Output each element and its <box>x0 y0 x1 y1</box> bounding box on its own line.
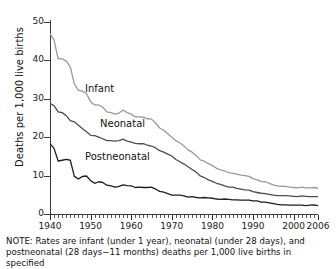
x-tick-1962 <box>139 215 140 218</box>
y-tick-label-50: 50 <box>0 17 44 26</box>
x-tick-1995 <box>273 215 274 218</box>
x-tick-1972 <box>180 215 181 218</box>
x-tick-1987 <box>241 215 242 218</box>
x-axis-ticks <box>50 215 318 219</box>
x-tick-2003 <box>306 215 307 218</box>
x-tick-1945 <box>70 215 71 218</box>
x-tick-1950 <box>91 215 92 220</box>
x-tick-1994 <box>269 215 270 218</box>
x-tick-1955 <box>111 215 112 218</box>
x-tick-1982 <box>221 215 222 218</box>
x-tick-1954 <box>107 215 108 218</box>
x-tick-2002 <box>302 215 303 218</box>
x-tick-1942 <box>58 215 59 218</box>
y-tick-label-40: 40 <box>0 55 44 64</box>
x-tick-1951 <box>95 215 96 218</box>
x-tick-1973 <box>184 215 185 218</box>
x-tick-1966 <box>156 215 157 218</box>
x-tick-1999 <box>290 215 291 218</box>
x-tick-1984 <box>229 215 230 218</box>
x-tick-1981 <box>216 215 217 218</box>
x-tick-2006 <box>318 215 319 220</box>
x-tick-1986 <box>237 215 238 218</box>
x-tick-1946 <box>74 215 75 218</box>
x-tick-1970 <box>172 215 173 220</box>
chart-note-line-1: NOTE: Rates are infant (under 1 year), n… <box>6 236 332 247</box>
x-tick-1969 <box>168 215 169 218</box>
x-axis-tick-labels: 19401950196019701980199020002006 <box>0 221 336 233</box>
x-tick-1956 <box>115 215 116 218</box>
x-tick-1976 <box>196 215 197 218</box>
x-tick-2004 <box>310 215 311 218</box>
x-tick-1989 <box>249 215 250 218</box>
y-tick-label-10: 10 <box>0 171 44 180</box>
x-tick-1971 <box>176 215 177 218</box>
x-tick-label-1950: 1950 <box>74 221 108 231</box>
x-tick-1943 <box>62 215 63 218</box>
x-tick-1977 <box>200 215 201 218</box>
x-tick-1978 <box>204 215 205 218</box>
y-tick-label-30: 30 <box>0 94 44 103</box>
x-tick-1993 <box>265 215 266 218</box>
x-tick-1990 <box>253 215 254 220</box>
x-tick-1957 <box>119 215 120 218</box>
x-tick-1960 <box>131 215 132 220</box>
x-tick-1975 <box>192 215 193 218</box>
x-tick-label-2006: 2006 <box>301 221 335 231</box>
x-tick-1988 <box>245 215 246 218</box>
x-tick-1958 <box>123 215 124 218</box>
x-tick-1992 <box>261 215 262 218</box>
series-label-postneonatal: Postneonatal <box>85 152 150 162</box>
chart-note: NOTE: Rates are infant (under 1 year), n… <box>6 236 332 269</box>
x-tick-1961 <box>135 215 136 218</box>
x-tick-2000 <box>294 215 295 220</box>
x-tick-1947 <box>78 215 79 218</box>
x-tick-1979 <box>208 215 209 218</box>
x-tick-1949 <box>87 215 88 218</box>
x-tick-1964 <box>147 215 148 218</box>
x-tick-1967 <box>160 215 161 218</box>
x-tick-1944 <box>66 215 67 218</box>
x-tick-1965 <box>152 215 153 218</box>
x-tick-1983 <box>225 215 226 218</box>
x-tick-label-1970: 1970 <box>155 221 189 231</box>
x-tick-1997 <box>281 215 282 218</box>
x-tick-1940 <box>50 215 51 220</box>
series-label-infant: Infant <box>85 84 114 94</box>
y-tick-label-20: 20 <box>0 132 44 141</box>
x-tick-1985 <box>233 215 234 218</box>
x-tick-1980 <box>212 215 213 220</box>
x-tick-1959 <box>127 215 128 218</box>
x-tick-label-1990: 1990 <box>236 221 270 231</box>
x-tick-1998 <box>286 215 287 218</box>
series-lines <box>50 22 318 214</box>
x-tick-1963 <box>143 215 144 218</box>
x-tick-1953 <box>103 215 104 218</box>
plot-area <box>50 22 318 214</box>
x-tick-2005 <box>314 215 315 218</box>
series-line-infant <box>50 34 318 189</box>
y-tick-label-0: 0 <box>0 209 44 218</box>
x-tick-label-1960: 1960 <box>114 221 148 231</box>
x-tick-1948 <box>82 215 83 218</box>
x-tick-label-1940: 1940 <box>33 221 67 231</box>
x-tick-2001 <box>298 215 299 218</box>
x-tick-1996 <box>277 215 278 218</box>
x-tick-1968 <box>164 215 165 218</box>
series-label-neonatal: Neonatal <box>100 119 145 129</box>
x-tick-1991 <box>257 215 258 218</box>
chart-note-line-2: postneonatal (28 days−11 months) deaths … <box>6 247 332 269</box>
x-tick-1941 <box>54 215 55 218</box>
x-tick-label-1980: 1980 <box>195 221 229 231</box>
x-tick-1952 <box>99 215 100 218</box>
x-tick-1974 <box>188 215 189 218</box>
